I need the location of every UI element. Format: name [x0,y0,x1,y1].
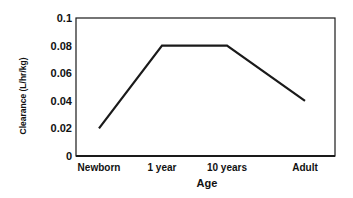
y-tick-label: 0.1 [57,12,72,24]
x-category-label: 1 year [148,162,177,173]
y-tick-label: 0.06 [51,67,72,79]
y-tick-label: 0.08 [51,40,72,52]
line-chart: 00.020.040.060.080.1 Newborn1 year10 yea… [0,0,353,198]
plot-frame [76,18,335,156]
y-tick-label: 0.04 [51,95,73,107]
x-category-label: Newborn [78,162,121,173]
x-category-label: 10 years [207,162,247,173]
x-axis-categories: Newborn1 year10 yearsAdult [78,162,319,173]
y-tick-label: 0 [66,150,72,162]
x-axis-title: Age [197,177,218,189]
clearance-line [99,46,305,129]
y-axis-ticks: 00.020.040.060.080.1 [51,12,73,162]
x-category-label: Adult [292,162,318,173]
y-axis-title: Clearance (L/hr/kg) [18,57,28,134]
y-tick-label: 0.02 [51,122,72,134]
